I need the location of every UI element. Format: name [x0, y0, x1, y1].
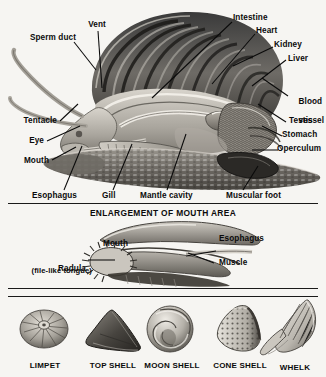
divider-rule-mid-upper: [8, 288, 318, 289]
divider-rule-mid-lower: [8, 296, 318, 297]
specimen-label-moon-shell: MOON SHELL: [135, 361, 209, 370]
specimen-label-whelk: WHELK: [270, 363, 320, 372]
specimen-label-limpet: LIMPET: [14, 361, 76, 370]
label-mouth-enlargement-muscle: Muscle: [219, 258, 247, 267]
specimen-label-cone-shell: CONE SHELL: [205, 361, 275, 370]
leader-lines-mouth: [0, 0, 326, 377]
label-radula-subtitle: (file-like tongue): [0, 266, 92, 275]
figure-page: Sperm duct Vent Intestine Heart Kidney L…: [0, 0, 326, 377]
label-mouth-enlargement-esophagus: Esophagus: [219, 234, 264, 243]
label-mouth-enlargement-mouth: Mouth: [103, 239, 128, 248]
